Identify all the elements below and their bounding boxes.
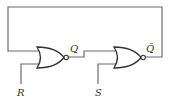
- feedback-wire: [8, 7, 162, 57]
- s-label: S: [95, 87, 102, 98]
- r-label: R: [16, 87, 25, 98]
- nor-gate-1: [37, 47, 68, 68]
- nor-gate-2: [114, 47, 145, 68]
- sr-latch-diagram: Q Q̄ R S: [0, 0, 169, 106]
- q-bar-label: Q̄: [146, 43, 154, 54]
- inverter-bubble-icon: [64, 55, 68, 59]
- q-label: Q: [70, 43, 78, 54]
- inverter-bubble-icon: [141, 55, 145, 59]
